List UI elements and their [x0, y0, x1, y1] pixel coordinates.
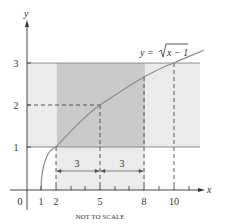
y-tick-label-3: 3 [14, 58, 19, 69]
interval-left-label: 3 [75, 158, 80, 169]
not-to-scale-note: NOT TO SCALE [75, 213, 124, 221]
y-axis-label: y [23, 8, 29, 19]
origin-label: 0 [18, 196, 23, 207]
x-tick-label-2: 2 [54, 196, 59, 207]
vertical-band-shade [56, 147, 145, 190]
x-tick-label-10: 10 [169, 196, 179, 207]
x-tick-label-1: 1 [39, 196, 44, 207]
x-axis-arrow-icon [198, 188, 205, 192]
sqrt-function-diagram: 3 3 y x 0 1 2 5 8 10 1 2 3 y = x [0, 0, 225, 224]
x-tick-label-5: 5 [98, 196, 103, 207]
y-tick-label-1: 1 [14, 142, 19, 153]
function-label-prefix: y = [139, 47, 154, 58]
function-label-radicand: x − 1 [166, 47, 188, 58]
interval-right-label: 3 [120, 158, 125, 169]
x-axis-label: x [206, 184, 212, 195]
y-tick-label-2: 2 [14, 100, 19, 111]
x-tick-label-8: 8 [142, 196, 147, 207]
y-axis-arrow-icon [25, 20, 29, 27]
function-label: y = x − 1 [139, 44, 188, 58]
